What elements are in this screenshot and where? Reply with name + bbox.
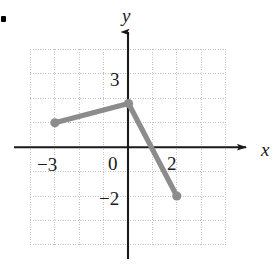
coordinate-plane-svg (0, 0, 280, 269)
data-point-vertex (124, 99, 133, 108)
origin-label: 0 (108, 154, 118, 173)
x-tick-label-neg3: −3 (37, 155, 57, 174)
data-point-right-endpoint (172, 191, 181, 200)
axes (14, 32, 246, 259)
y-axis-label: y (122, 6, 130, 25)
curve-polyline (55, 104, 177, 197)
graph-figure: y x 3 −2 −3 0 2 (0, 0, 280, 269)
x-axis-label: x (261, 140, 269, 159)
data-point-left-endpoint (50, 118, 59, 127)
x-tick-label-2: 2 (167, 154, 177, 173)
plot-curve (50, 99, 181, 201)
y-tick-label-neg2: −2 (99, 189, 119, 208)
y-tick-label-3: 3 (110, 70, 120, 89)
bullet-marker-icon (1, 16, 6, 22)
